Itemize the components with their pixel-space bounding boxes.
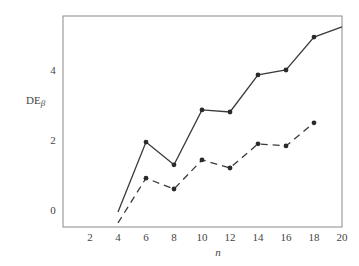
- data-point-marker: [312, 120, 317, 125]
- x-axis-ticks: 2468101214161820: [87, 231, 348, 243]
- y-tick-label: 2: [50, 134, 56, 146]
- x-tick-label: 20: [337, 231, 349, 243]
- x-tick-label: 12: [225, 231, 236, 243]
- x-tick-label: 4: [115, 231, 121, 243]
- data-point-marker: [200, 108, 205, 113]
- data-point-marker: [200, 158, 205, 163]
- x-tick-label: 2: [87, 231, 93, 243]
- line-chart: 2468101214161820 024 DEβ n: [0, 0, 359, 266]
- y-axis-ticks: 024: [50, 64, 56, 216]
- y-tick-label: 4: [50, 64, 56, 76]
- data-point-marker: [172, 162, 177, 167]
- plot-frame: [63, 16, 342, 227]
- data-point-marker: [144, 140, 149, 145]
- data-point-marker: [256, 73, 261, 78]
- x-tick-label: 16: [281, 231, 293, 243]
- x-tick-label: 14: [253, 231, 265, 243]
- y-tick-label: 0: [50, 204, 56, 216]
- data-point-marker: [228, 166, 233, 171]
- x-axis-label: n: [215, 246, 221, 258]
- data-point-marker: [284, 68, 289, 73]
- x-tick-label: 6: [143, 231, 149, 243]
- data-point-marker: [228, 110, 233, 115]
- x-tick-label: 18: [309, 231, 321, 243]
- y-axis-label: DEβ: [26, 94, 46, 108]
- data-point-marker: [172, 187, 177, 192]
- dashed-series-line: [118, 123, 314, 223]
- data-series: [118, 27, 342, 223]
- x-tick-label: 8: [171, 231, 177, 243]
- data-point-marker: [312, 35, 317, 40]
- data-point-marker: [284, 144, 289, 149]
- x-tick-label: 10: [197, 231, 209, 243]
- solid-series-line: [118, 27, 342, 212]
- data-point-marker: [144, 176, 149, 181]
- data-point-marker: [256, 141, 261, 146]
